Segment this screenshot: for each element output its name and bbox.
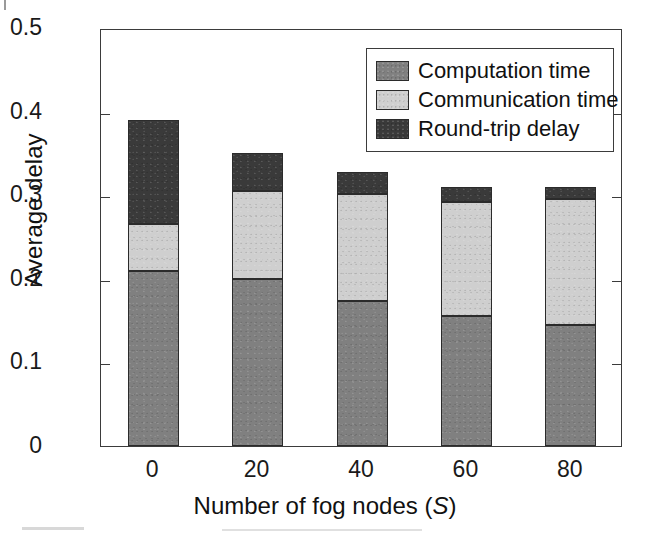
- bar-segment: [232, 279, 283, 446]
- bar-segment: [441, 316, 492, 446]
- bar-segment: [128, 120, 179, 225]
- legend-label-communication-time: Communication time: [418, 89, 619, 111]
- legend-swatch-round-trip-delay: [376, 119, 409, 139]
- bar-segment: [337, 194, 388, 302]
- bar-segment: [545, 187, 596, 199]
- x-axis-title-prefix: Number of fog nodes (: [194, 492, 433, 519]
- bar-segment: [337, 172, 388, 194]
- x-axis-tick-label: 80: [557, 456, 583, 483]
- bar-segment: [128, 224, 179, 271]
- figure-container: Average delay 00.10.20.30.40.5 Computati…: [0, 0, 650, 535]
- plot-area: Computation time Communication time Roun…: [100, 29, 622, 447]
- chart-legend: Computation time Communication time Roun…: [366, 48, 614, 152]
- legend-item: Communication time: [376, 85, 604, 114]
- bar-stack: [128, 28, 179, 446]
- y-axis-tick: [612, 364, 621, 365]
- bar-segment: [337, 301, 388, 446]
- bar-segment: [128, 271, 179, 446]
- bar-stack: [232, 28, 283, 446]
- x-axis-title-suffix: ): [448, 492, 456, 519]
- legend-item: Round-trip delay: [376, 114, 604, 143]
- y-axis-tick: [612, 281, 621, 282]
- bar-segment: [441, 187, 492, 202]
- y-axis-tick-label: 0.1: [10, 348, 42, 375]
- legend-label-computation-time: Computation time: [418, 60, 590, 82]
- bar-segment: [545, 325, 596, 446]
- y-axis-tick: [101, 114, 110, 115]
- y-axis-tick-label: 0: [29, 432, 42, 459]
- y-axis-tick-label: 0.4: [10, 98, 42, 125]
- scan-artifact-bottom-right: [222, 529, 422, 531]
- y-axis-tick-label: 0.3: [10, 181, 42, 208]
- scan-artifact-bottom-left: [22, 527, 84, 530]
- y-axis-tick-label: 0.2: [10, 265, 42, 292]
- y-axis-tick-label: 0.5: [10, 14, 42, 41]
- y-axis-tick: [101, 281, 110, 282]
- x-axis-tick-label: 40: [348, 456, 374, 483]
- legend-label-round-trip-delay: Round-trip delay: [418, 118, 579, 140]
- x-axis-title-symbol: S: [432, 492, 448, 519]
- bar-segment: [232, 191, 283, 279]
- scan-artifact-top-left: [4, 0, 6, 10]
- bar-segment: [232, 153, 283, 191]
- x-axis-tick-label: 60: [453, 456, 479, 483]
- bar-segment: [545, 199, 596, 325]
- x-axis-tick-label: 0: [146, 456, 159, 483]
- legend-item: Computation time: [376, 56, 604, 85]
- y-axis-tick: [101, 197, 110, 198]
- y-axis-tick: [612, 197, 621, 198]
- y-axis-tick: [101, 364, 110, 365]
- legend-swatch-computation-time: [376, 61, 409, 81]
- x-axis-tick-label: 20: [244, 456, 270, 483]
- bar-segment: [441, 202, 492, 317]
- x-axis-title: Number of fog nodes (S): [0, 492, 650, 520]
- legend-swatch-communication-time: [376, 90, 409, 110]
